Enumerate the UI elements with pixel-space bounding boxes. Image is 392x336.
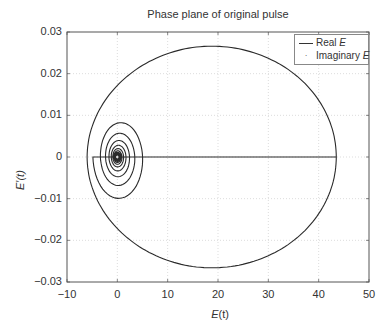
legend-item-imaginary: ·Imaginary E: [299, 49, 369, 62]
y-tick-label: 0.03: [41, 25, 62, 37]
real-e-curve: [87, 46, 336, 268]
y-tick-label: 0.02: [41, 67, 62, 79]
y-tick-label: −0.03: [34, 275, 62, 287]
x-tick-label: 20: [203, 288, 233, 300]
x-tick-label: 30: [253, 288, 283, 300]
x-tick-label: 40: [304, 288, 334, 300]
y-axis-label: E′(t): [14, 170, 26, 190]
x-tick-label: 10: [153, 288, 183, 300]
line-icon: [299, 43, 313, 44]
legend-item-real: Real E: [299, 36, 346, 49]
legend: Real E ·Imaginary E: [294, 34, 369, 65]
y-tick-label: −0.02: [34, 233, 62, 245]
y-tick-label: 0.01: [41, 108, 62, 120]
dot-icon: ·: [299, 52, 313, 60]
imaginary-e-points: [116, 156, 118, 158]
x-tick-label: 50: [354, 288, 384, 300]
x-axis-label: E(t): [200, 308, 240, 320]
y-tick-label: −0.01: [34, 192, 62, 204]
x-tick-label: 0: [102, 288, 132, 300]
y-tick-label: 0: [56, 150, 62, 162]
x-tick-label: −10: [52, 288, 82, 300]
